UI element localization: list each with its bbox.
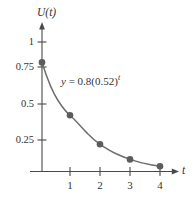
- x-axis: [30, 169, 179, 175]
- exponential-decay-chart: U(t) t 1 0.75 0.5 0.25 1 2 3 4 y = 0.8(0…: [0, 0, 195, 197]
- equation-exponent: t: [118, 73, 120, 82]
- x-tick-label-1: 1: [62, 180, 78, 191]
- y-tick-label-0-25: 0.25: [3, 135, 34, 146]
- data-point: [39, 59, 46, 66]
- equation-base: 0.52: [95, 75, 114, 87]
- y-axis-title: U(t): [37, 7, 56, 19]
- y-tick-label-1: 1: [6, 37, 34, 48]
- x-tick-label-2: 2: [92, 180, 108, 191]
- equation-coefficient: 0.8: [78, 75, 92, 87]
- data-point: [97, 141, 104, 148]
- x-axis-title: t: [182, 165, 185, 177]
- data-point: [157, 163, 164, 170]
- y-tick-label-0-5: 0.5: [6, 99, 34, 110]
- x-tick-label-4: 4: [152, 180, 168, 191]
- data-point: [127, 156, 134, 163]
- data-point: [67, 112, 74, 119]
- y-tick-label-0-75: 0.75: [3, 62, 34, 73]
- x-tick-label-3: 3: [122, 180, 138, 191]
- y-axis: [39, 22, 45, 172]
- curve-equation-annotation: y = 0.8(0.52)t: [61, 76, 120, 87]
